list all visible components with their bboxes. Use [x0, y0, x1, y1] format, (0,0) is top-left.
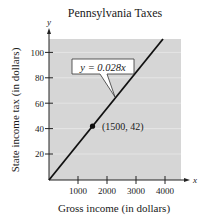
- y-tick-labels: 100 80 60 40 20: [31, 48, 45, 160]
- y-tick-label: 100: [31, 48, 45, 58]
- x-tick-label: 3000: [127, 186, 146, 196]
- x-axis-label: Gross income (in dollars): [58, 202, 170, 215]
- x-axis-arrow-icon: [184, 178, 190, 182]
- y-tick-label: 20: [35, 149, 45, 159]
- y-tick-label: 80: [35, 73, 45, 83]
- x-tick-label: 2000: [98, 186, 117, 196]
- x-tick-label: 1000: [69, 186, 88, 196]
- data-point: [90, 124, 95, 129]
- x-tick-labels: 1000 2000 3000 4000: [69, 186, 175, 196]
- equation-label: y = 0.028x: [79, 62, 126, 73]
- x-axis-var: x: [192, 175, 197, 185]
- y-tick-label: 40: [35, 124, 45, 134]
- chart: Pennsylvania Taxes y x 100 80 60 40 20: [0, 0, 200, 223]
- y-axis-arrow-icon: [47, 28, 51, 34]
- point-label: (1500, 42): [102, 121, 144, 133]
- x-tick-label: 4000: [156, 186, 175, 196]
- y-axis-var: y: [46, 17, 51, 27]
- y-tick-label: 60: [35, 99, 45, 109]
- chart-title: Pennsylvania Taxes: [68, 6, 163, 20]
- y-axis-label: State income tax (in dollars): [9, 47, 22, 172]
